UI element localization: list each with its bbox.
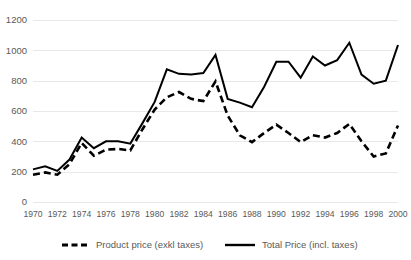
x-tick-label: 1994: [315, 209, 334, 219]
chart-legend: Product price (exkl taxes)Total Price (i…: [62, 239, 358, 250]
y-tick-label: 0: [22, 196, 27, 207]
x-tick-label: 1980: [145, 209, 164, 219]
y-tick-label: 600: [11, 105, 27, 116]
x-tick-label: 1970: [23, 209, 42, 219]
x-tick-label: 2000: [388, 209, 407, 219]
chart-screenshot: 020040060080010001200 197019721974197619…: [0, 0, 411, 260]
series-line-product-price: [33, 81, 398, 174]
x-tick-label: 1988: [242, 209, 261, 219]
x-tick-label: 1982: [169, 209, 188, 219]
x-tick-label: 1976: [96, 209, 115, 219]
x-tick-label: 1972: [48, 209, 67, 219]
legend-label-total-price: Total Price (incl. taxes): [262, 239, 358, 250]
series-line-total-price: [33, 43, 398, 171]
gridlines: [33, 21, 398, 203]
line-chart: 020040060080010001200 197019721974197619…: [0, 0, 411, 260]
legend-label-product-price: Product price (exkl taxes): [96, 239, 203, 250]
x-tick-label: 1984: [194, 209, 213, 219]
y-axis-tick-labels: 020040060080010001200: [6, 14, 27, 207]
x-tick-label: 1992: [291, 209, 310, 219]
x-tick-label: 1998: [364, 209, 383, 219]
x-tick-label: 1986: [218, 209, 237, 219]
y-tick-label: 800: [11, 75, 27, 86]
x-tick-label: 1990: [267, 209, 286, 219]
y-tick-label: 200: [11, 166, 27, 177]
y-tick-label: 1200: [6, 14, 27, 25]
x-axis-tick-labels: 1970197219741976197819801982198419861988…: [23, 209, 407, 219]
y-tick-label: 400: [11, 136, 27, 147]
x-tick-label: 1996: [340, 209, 359, 219]
y-tick-label: 1000: [6, 45, 27, 56]
data-series: [33, 43, 398, 175]
x-tick-label: 1974: [72, 209, 91, 219]
x-tick-label: 1978: [121, 209, 140, 219]
